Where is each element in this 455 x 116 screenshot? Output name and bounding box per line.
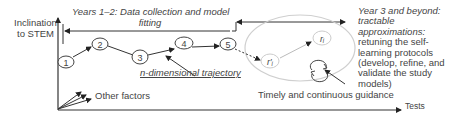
trajectory-node-1: 1 bbox=[58, 56, 74, 68]
trajectory-node-2: 2 bbox=[92, 38, 108, 50]
cycle-arrow bbox=[280, 42, 311, 58]
svg-text:1: 1 bbox=[63, 58, 68, 68]
phase1-label: Years 1–2: Data collection and model fit… bbox=[72, 6, 228, 28]
y-axis-label-line1: Inclination bbox=[14, 17, 54, 28]
phase2-label: Year 3 and beyond: tractable approximati… bbox=[358, 6, 445, 89]
trajectory-node-4: 4 bbox=[175, 37, 193, 49]
svg-text:4: 4 bbox=[181, 39, 186, 49]
svg-text:2: 2 bbox=[97, 40, 102, 50]
other-factors-label: Other factors bbox=[95, 90, 150, 101]
phase1-label-line1: Years 1–2: Data collection and model bbox=[72, 6, 228, 17]
y-axis-label-line2: to STEM bbox=[14, 28, 54, 39]
y-axis-label: Inclination to STEM bbox=[14, 17, 54, 39]
x-axis-label: Tests bbox=[405, 101, 425, 112]
other-factors-arrows bbox=[58, 92, 91, 109]
trajectory-node-5: 5 bbox=[220, 38, 236, 50]
svg-text:3: 3 bbox=[137, 53, 142, 63]
svg-text:5: 5 bbox=[225, 40, 230, 50]
phase2-desc-line5: models) bbox=[358, 79, 445, 89]
phase1-label-line2: fitting bbox=[72, 17, 228, 28]
trajectory-label: n-dimensional trajectory bbox=[140, 67, 241, 78]
svg-text:r′ᵢ: r′ᵢ bbox=[267, 57, 274, 67]
guidance-label: Timely and continuous guidance bbox=[258, 89, 394, 100]
trajectory-node-3: 3 bbox=[132, 50, 148, 64]
cycle-node-r: rᵢ bbox=[313, 31, 331, 45]
cycle-node-r-prime: r′ᵢ bbox=[261, 54, 279, 68]
